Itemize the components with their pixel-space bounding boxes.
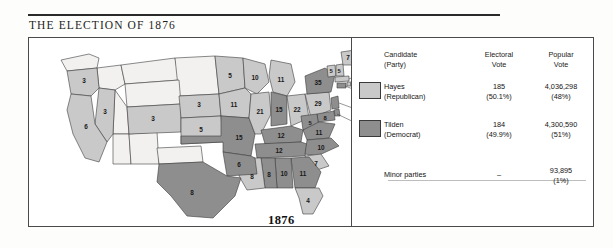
legend-name-minor: Minor parties [384,170,480,180]
legend-name-tilden: Tilden (Democrat) [384,120,470,139]
page-title: THE ELECTION OF 1876 [29,19,176,31]
vote-label-WI: 10 [251,74,259,81]
vote-label-MN: 5 [228,72,232,79]
legend-header-electoral: Electoral Vote [470,50,528,69]
legend-popular-hayes: 4,036,298 (48%) [532,82,590,101]
vote-label-TX: 8 [190,189,194,196]
state-NJ [331,96,339,109]
map-date-badge: 1876 [268,213,295,228]
legend-popular-tilden: 4,300,590 (51%) [532,120,590,139]
vote-label-IL: 21 [256,108,264,115]
vote-label-AL: 10 [280,170,288,177]
infographic-root: THE ELECTION OF 1876 [0,0,613,248]
vote-label-OR: 3 [82,77,86,84]
vote-label-ME: 7 [346,54,350,61]
us-electoral-map: 3 6 3 3 3 5 5 11 10 11 21 15 22 29 35 7 [29,38,351,226]
legend-name-tilden-line1: Tilden [384,120,470,130]
legend-popular-tilden-pct: (51%) [532,130,590,140]
vote-label-KS: 5 [199,126,203,133]
legend-electoral-tilden-value: 184 [470,120,528,130]
territory-indian [157,146,203,164]
legend-popular-hayes-pct: (48%) [532,92,590,102]
legend-popular-minor-value: 93,895 [532,166,590,176]
vote-label-PA: 29 [314,100,322,107]
vote-label-AR: 6 [237,161,241,168]
vote-label-IA: 11 [231,101,238,108]
vote-label-NE: 3 [197,101,201,108]
vote-label-LA: 8 [250,173,254,180]
territory-idaho [97,65,125,90]
vote-label-IN: 15 [275,106,283,113]
vote-label-TN: 12 [275,147,283,154]
legend-electoral-tilden-pct: (49.9%) [470,130,528,140]
legend-popular-minor-pct: (1%) [532,176,590,186]
territory-arizona [113,134,131,164]
territory-newmexico [129,132,159,164]
legend-header-electoral-line1: Electoral [470,50,528,60]
vote-label-CA: 6 [84,123,88,130]
legend-electoral-tilden: 184 (49.9%) [470,120,528,139]
vote-label-NY: 35 [314,79,322,86]
title-rule [28,14,500,16]
legend-header-popular-line1: Popular [532,50,590,60]
legend-header-candidate-line2: (Party) [384,60,470,70]
legend-electoral-minor: – [470,170,528,180]
legend-popular-tilden-value: 4,300,590 [532,120,590,130]
vote-label-OH: 22 [293,106,301,113]
state-CT [337,83,346,88]
legend-electoral-hayes-value: 185 [470,82,528,92]
vote-label-KY: 12 [277,132,285,139]
territory-wyoming [125,80,181,107]
vote-label-SC: 7 [314,160,318,167]
legend-name-hayes-line2: (Republican) [384,92,470,102]
territory-dakota [175,56,219,96]
vote-label-MO: 15 [235,134,243,141]
legend-electoral-hayes: 185 (50.1%) [470,82,528,101]
vote-label-CO: 3 [151,115,155,122]
vote-label-FL: 4 [306,197,310,204]
state-MA [335,76,349,82]
vote-label-GA: 11 [300,170,307,177]
vote-label-VA: 11 [316,129,323,136]
legend-name-tilden-line2: (Democrat) [384,130,470,140]
legend-header-candidate-line1: Candidate [384,50,470,60]
legend-header-candidate: Candidate (Party) [384,50,470,69]
vote-label-NV: 3 [103,108,107,115]
legend-popular-hayes-value: 4,036,298 [532,82,590,92]
vote-label-MI: 11 [278,76,285,83]
territory-montana [121,58,179,84]
figure-frame: 3 6 3 3 3 5 5 11 10 11 21 15 22 29 35 7 [28,37,594,227]
vote-label-MS: 8 [267,171,271,178]
vote-label-NC: 10 [317,144,325,151]
legend-popular-minor: 93,895 (1%) [532,166,590,185]
legend-swatch-hayes [359,82,381,99]
legend-header-popular: Popular Vote [532,50,590,69]
legend-header-electoral-line2: Vote [470,60,528,70]
legend-swatch-tilden [359,120,381,137]
election-map-panel: 3 6 3 3 3 5 5 11 10 11 21 15 22 29 35 7 [29,38,351,226]
legend-electoral-hayes-pct: (50.1%) [470,92,528,102]
legend-name-hayes: Hayes (Republican) [384,82,470,101]
legend-panel: Candidate (Party) Electoral Vote Popular… [352,38,595,226]
legend-header-popular-line2: Vote [532,60,590,70]
legend-name-hayes-line1: Hayes [384,82,470,92]
